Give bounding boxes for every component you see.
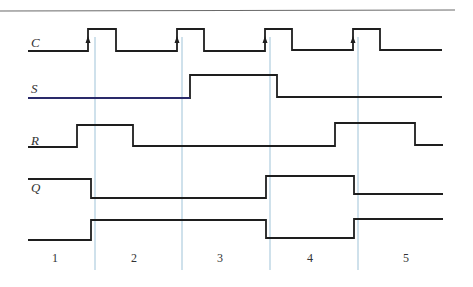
clock-edge-guide-lines xyxy=(95,37,358,270)
period-label-4: 4 xyxy=(307,251,313,265)
waveform-s xyxy=(28,75,442,98)
top-rule xyxy=(0,10,455,11)
period-labels: 1 2 3 4 5 xyxy=(52,251,409,265)
waveform-r xyxy=(28,123,443,147)
signal-label-r: R xyxy=(30,133,39,148)
period-label-2: 2 xyxy=(131,251,137,265)
period-label-1: 1 xyxy=(52,251,58,265)
waveform-c xyxy=(28,29,442,51)
rising-edge-arrow-icon-2 xyxy=(175,36,180,43)
rising-edge-arrow-icon-4 xyxy=(351,36,356,43)
signal-label-c: C xyxy=(31,35,40,50)
signal-labels: C S R Q xyxy=(30,35,41,195)
signal-label-s: S xyxy=(31,81,38,96)
rising-edge-arrow-icon-3 xyxy=(263,36,268,43)
period-label-5: 5 xyxy=(403,251,409,265)
rising-edge-arrow-icon-1 xyxy=(86,36,91,43)
waveform-q-bar xyxy=(28,219,443,240)
period-label-3: 3 xyxy=(217,251,223,265)
signal-label-q: Q xyxy=(31,180,41,195)
waveform-q xyxy=(28,176,443,198)
timing-diagram: C S R Q 1 2 3 4 5 xyxy=(0,0,473,287)
waveforms xyxy=(28,29,443,240)
